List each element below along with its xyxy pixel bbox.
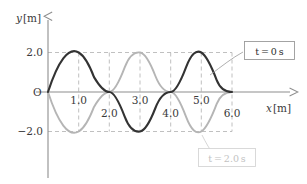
- y-tick-label-minus2: −2.0: [18, 125, 44, 137]
- x-axis-label: x: [266, 102, 272, 114]
- x-tick-label-5: 5.0: [193, 94, 210, 106]
- callout-box-t0[interactable]: t = 0 s: [245, 42, 295, 60]
- x-tick-label-2: 2.0: [101, 107, 118, 119]
- x-tick-label-3: 3.0: [132, 94, 149, 106]
- wave-curve-t2: [48, 52, 232, 132]
- y-axis-unit: [m]: [23, 12, 41, 24]
- x-tick-label-6: 6.0: [224, 107, 241, 119]
- callout-box-t0-label: t = 0 s: [255, 46, 284, 57]
- y-axis-label: y: [15, 12, 23, 24]
- callout-leader-t0: [210, 52, 243, 75]
- wave-graph-figure: t = 0 s t = 2.0 s y [m] x [m] O 2.0 −2.0…: [0, 0, 307, 184]
- y-tick-label-2: 2.0: [26, 46, 43, 58]
- x-tick-label-4: 4.0: [162, 107, 179, 119]
- x-tick-label-1: 1.0: [70, 94, 87, 106]
- callout-box-t2[interactable]: t = 2.0 s: [199, 149, 256, 167]
- origin-label: O: [33, 86, 42, 98]
- callout-box-t2-label: t = 2.0 s: [208, 153, 246, 164]
- axis-labels: y [m] x [m] O: [15, 12, 291, 114]
- x-axis-unit: [m]: [273, 102, 291, 114]
